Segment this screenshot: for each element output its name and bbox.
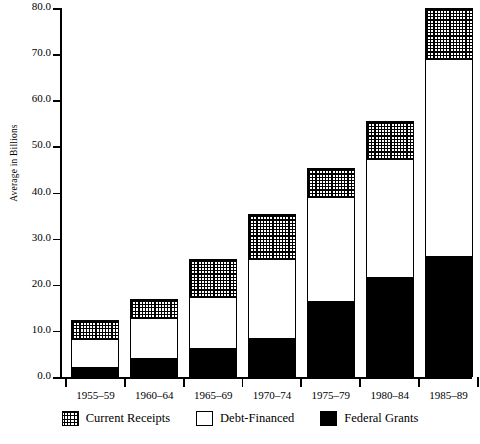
x-axis-tick-mark: [242, 377, 244, 387]
bar-segment-debt-financed: [71, 339, 119, 368]
x-axis-tick-mark: [300, 377, 302, 387]
legend-label: Federal Grants: [344, 411, 418, 426]
bar-segment-federal-grants: [366, 278, 414, 377]
x-axis-tick-label: 1980–84: [360, 389, 419, 401]
bar-segment-federal-grants: [425, 257, 473, 377]
bar-segment-federal-grants: [307, 302, 355, 377]
bar-segment-current-receipts: [130, 299, 178, 318]
y-axis-tick-mark: [53, 285, 62, 287]
y-axis-tick-mark: [53, 193, 62, 195]
bar-segment-debt-financed: [307, 197, 355, 302]
bar: [248, 214, 296, 377]
y-axis-tick-mark: [53, 331, 62, 333]
bar-segment-debt-financed: [248, 259, 296, 339]
x-axis-tick-label: 1955–59: [66, 389, 125, 401]
chart-legend: Current ReceiptsDebt-FinancedFederal Gra…: [0, 411, 480, 426]
legend-swatch-black: [320, 411, 337, 426]
legend-item: Debt-Financed: [196, 411, 294, 426]
bar-segment-federal-grants: [248, 339, 296, 377]
legend-item: Current Receipts: [62, 411, 170, 426]
x-axis-tick-mark: [477, 377, 479, 387]
x-axis-tick-label: 1960–64: [125, 389, 184, 401]
x-axis-tick-label: 1975–79: [301, 389, 360, 401]
y-axis-tick-label: 70.0: [5, 46, 51, 58]
y-axis-tick-label: 80.0: [5, 0, 51, 12]
legend-swatch-white: [196, 411, 213, 426]
y-axis-tick-label: 30.0: [5, 231, 51, 243]
bar: [366, 121, 414, 377]
bar-segment-current-receipts: [189, 259, 237, 297]
x-axis-tick-mark: [124, 377, 126, 387]
bar-segment-debt-financed: [366, 159, 414, 278]
bar-segment-current-receipts: [71, 320, 119, 339]
bar: [189, 259, 237, 377]
x-axis-tick-label: 1970–74: [243, 389, 302, 401]
legend-label: Debt-Financed: [220, 411, 294, 426]
y-axis-tick-label: 0.0: [5, 369, 51, 381]
x-axis-tick-mark: [418, 377, 420, 387]
bar-segment-current-receipts: [366, 121, 414, 158]
y-axis-tick-mark: [53, 100, 62, 102]
bar-segment-debt-financed: [425, 59, 473, 257]
bar-segment-current-receipts: [307, 168, 355, 197]
y-axis-tick-label: 50.0: [5, 138, 51, 150]
legend-label: Current Receipts: [86, 411, 170, 426]
y-axis-tick-mark: [53, 377, 62, 379]
y-axis-tick-label: 10.0: [5, 323, 51, 335]
x-axis-tick-mark: [65, 377, 67, 387]
bar: [425, 8, 473, 377]
y-axis-tick-mark: [53, 54, 62, 56]
bar-segment-federal-grants: [130, 359, 178, 377]
y-axis-tick-mark: [53, 239, 62, 241]
bar-segment-federal-grants: [189, 349, 237, 377]
legend-swatch-dotted: [62, 411, 79, 426]
x-axis-tick-mark: [359, 377, 361, 387]
x-axis-tick-mark: [183, 377, 185, 387]
bar: [307, 168, 355, 377]
bar-segment-current-receipts: [248, 214, 296, 259]
stacked-bar-chart: Average in Billions 0.010.020.030.040.05…: [0, 0, 480, 444]
bar-segment-current-receipts: [425, 8, 473, 59]
y-axis-tick-mark: [53, 146, 62, 148]
plot-area: 0.010.020.030.040.050.060.070.080.0 1955…: [60, 8, 472, 378]
legend-item: Federal Grants: [320, 411, 418, 426]
bar-segment-federal-grants: [71, 368, 119, 377]
x-axis-tick-label: 1985–89: [419, 389, 478, 401]
y-axis-tick-label: 20.0: [5, 277, 51, 289]
bar-segment-debt-financed: [189, 297, 237, 349]
y-axis-tick-label: 60.0: [5, 92, 51, 104]
y-axis-tick-mark: [53, 8, 62, 10]
x-axis-line: [60, 377, 472, 379]
bar: [71, 320, 119, 377]
y-axis-title: Average in Billions: [9, 103, 19, 223]
y-axis-tick-label: 40.0: [5, 185, 51, 197]
x-axis-tick-label: 1965–69: [184, 389, 243, 401]
bar-segment-debt-financed: [130, 318, 178, 358]
bar: [130, 299, 178, 377]
